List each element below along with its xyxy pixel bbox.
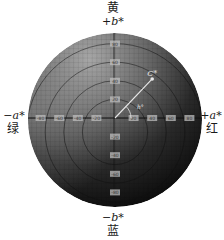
tick-label: -20 [91,115,101,121]
svg-text:-80: -80 [111,190,118,195]
color-disc: -80-60-40-202040608080604020-20-40-60-80 [27,33,204,220]
svg-text:40: 40 [149,116,155,121]
svg-text:-40: -40 [111,153,118,158]
svg-text:80: 80 [112,42,118,47]
svg-text:-20: -20 [111,135,118,140]
tick-label: -80 [110,189,120,195]
svg-text:60: 60 [168,116,174,121]
tick-label: 40 [147,115,157,121]
label-minus-a: −a* [2,110,26,121]
tick-label: -80 [36,115,46,121]
label-minus-b: −b* [98,212,128,223]
tick-label: -60 [110,171,120,177]
tick-label: 80 [110,41,120,47]
svg-text:-20: -20 [93,116,100,121]
tick-label: 80 [184,115,194,121]
label-green: 绿 [4,123,22,135]
svg-text:-60: -60 [111,172,118,177]
hue-label: h° [137,103,144,110]
label-red: 红 [203,123,221,135]
svg-text:20: 20 [112,97,118,102]
svg-text:40: 40 [112,79,118,84]
label-yellow: 黄 [104,2,122,14]
tick-label: 40 [110,78,120,84]
svg-text:60: 60 [112,60,118,65]
svg-text:20: 20 [131,116,137,121]
tick-label: -40 [110,152,120,158]
chroma-label: C* [147,69,157,78]
tick-label: -60 [54,115,64,121]
svg-text:80: 80 [187,116,193,121]
svg-text:-60: -60 [56,116,63,121]
tick-label: 20 [129,115,139,121]
label-blue: 蓝 [104,225,122,237]
label-plus-b: +b* [98,16,128,27]
tick-label: -40 [73,115,83,121]
tick-label: 20 [110,96,120,102]
svg-text:-80: -80 [37,116,44,121]
svg-text:-40: -40 [74,116,81,121]
tick-label: 60 [110,59,120,65]
lab-color-circle: -80-60-40-202040608080604020-20-40-60-80… [0,0,224,240]
tick-label: -20 [110,134,120,140]
tick-label: 60 [166,115,176,121]
label-plus-a: +a* [199,110,223,121]
